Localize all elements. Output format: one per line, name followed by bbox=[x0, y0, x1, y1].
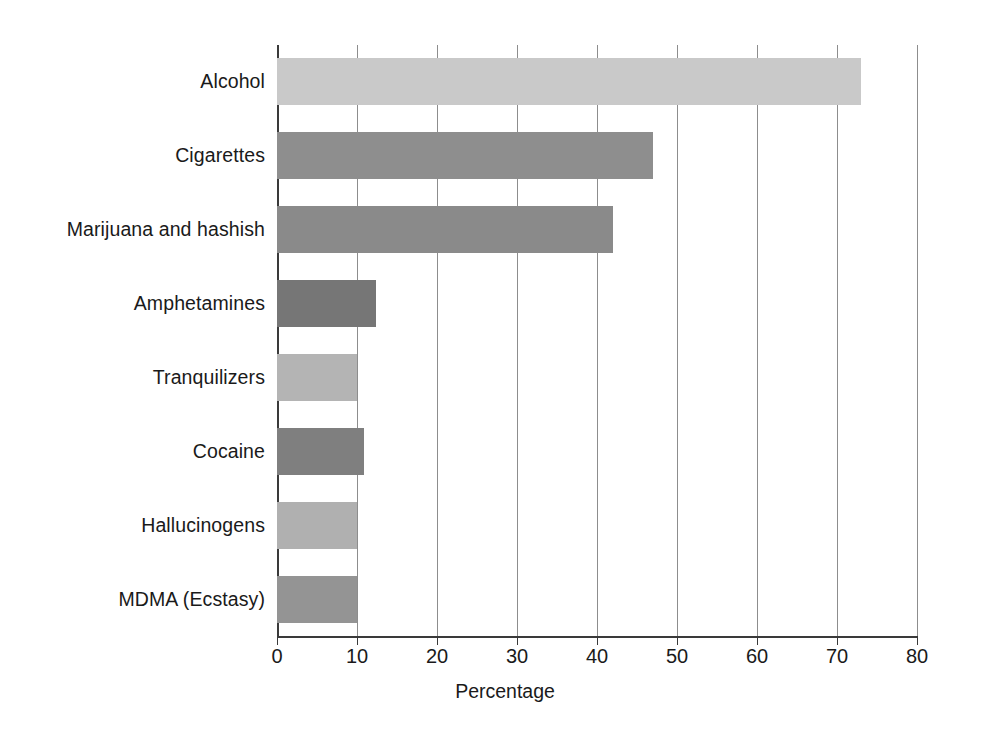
tick-label: 40 bbox=[567, 645, 627, 668]
bar-cocaine[interactable] bbox=[277, 428, 364, 475]
tick-label: 30 bbox=[487, 645, 547, 668]
tick-mark-20 bbox=[437, 636, 438, 645]
bar-mdma-ecstasy[interactable] bbox=[277, 576, 357, 623]
tick-mark-70 bbox=[837, 636, 838, 645]
bar-cigarettes[interactable] bbox=[277, 132, 653, 179]
category-label: Amphetamines bbox=[134, 280, 265, 327]
plot-area bbox=[277, 45, 917, 636]
tick-mark-60 bbox=[757, 636, 758, 645]
tick-mark-80 bbox=[917, 636, 918, 645]
bar-marijuana-and-hashish[interactable] bbox=[277, 206, 613, 253]
category-label: Marijuana and hashish bbox=[67, 206, 265, 253]
bar-row bbox=[277, 206, 917, 253]
bar-row bbox=[277, 58, 917, 105]
category-axis-labels: AlcoholCigarettesMarijuana and hashishAm… bbox=[0, 45, 265, 636]
bar-tranquilizers[interactable] bbox=[277, 354, 357, 401]
category-label: Hallucinogens bbox=[141, 502, 265, 549]
x-axis-tick-labels: 01020304050607080 bbox=[0, 645, 986, 675]
category-label: Cocaine bbox=[193, 428, 265, 475]
tick-mark-50 bbox=[677, 636, 678, 645]
tick-mark-40 bbox=[597, 636, 598, 645]
tick-label: 80 bbox=[887, 645, 947, 668]
bar-row bbox=[277, 354, 917, 401]
tick-label: 50 bbox=[647, 645, 707, 668]
bar-row bbox=[277, 576, 917, 623]
tick-label: 60 bbox=[727, 645, 787, 668]
category-label: MDMA (Ecstasy) bbox=[118, 576, 265, 623]
category-label: Tranquilizers bbox=[153, 354, 265, 401]
bar-hallucinogens[interactable] bbox=[277, 502, 357, 549]
tick-mark-0 bbox=[277, 636, 278, 645]
bar-row bbox=[277, 280, 917, 327]
category-label: Cigarettes bbox=[175, 132, 265, 179]
bar-amphetamines[interactable] bbox=[277, 280, 376, 327]
bar-alcohol[interactable] bbox=[277, 58, 861, 105]
bar-row bbox=[277, 132, 917, 179]
tick-label: 10 bbox=[327, 645, 387, 668]
x-axis-title: Percentage bbox=[0, 680, 986, 703]
bar-row bbox=[277, 428, 917, 475]
tick-mark-10 bbox=[357, 636, 358, 645]
tick-mark-30 bbox=[517, 636, 518, 645]
tick-label: 20 bbox=[407, 645, 467, 668]
tick-label: 0 bbox=[247, 645, 307, 668]
bar-chart: AlcoholCigarettesMarijuana and hashishAm… bbox=[0, 0, 986, 742]
tick-label: 70 bbox=[807, 645, 867, 668]
x-axis-title-text: Percentage bbox=[455, 680, 555, 703]
bar-row bbox=[277, 502, 917, 549]
gridline-80 bbox=[917, 45, 918, 636]
bar-series bbox=[277, 45, 917, 636]
category-label: Alcohol bbox=[200, 58, 265, 105]
